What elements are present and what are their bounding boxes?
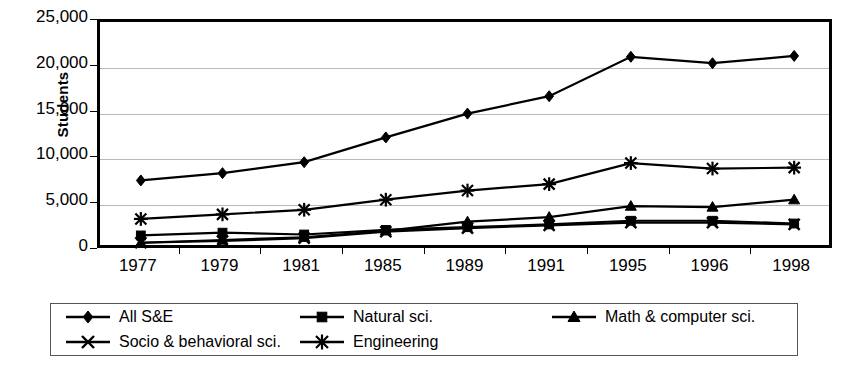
y-tick-mark [90,19,97,20]
x-tick-label: 1998 [746,256,836,276]
x-tick-mark [750,248,751,254]
x-tick-label: 1989 [420,256,510,276]
y-tick-mark [90,248,97,249]
y-tick-label: 10,000 [0,145,88,162]
legend-row: All S&ENatural sci.Math & computer sci. [51,304,797,329]
x-tick-label: 1981 [256,256,346,276]
x-tick-mark [179,248,180,254]
legend-item[interactable]: All S&E [64,307,298,327]
data-point-diamond [381,132,390,143]
y-tick-label: 5,000 [0,191,88,208]
x-tick-label: 1991 [501,256,591,276]
chart-legend: All S&ENatural sci.Math & computer sci. … [50,303,798,356]
legend-row: Socio & behavioral sci.Engineering [51,329,797,354]
data-point-diamond [83,311,93,323]
data-point-diamond [463,108,472,119]
x-tick-label: 1985 [338,256,428,276]
data-point-asterisk [624,156,638,170]
legend-label: Engineering [346,333,438,351]
x-tick-mark [505,248,506,254]
legend-label: Socio & behavioral sci. [112,333,281,351]
data-point-diamond [136,175,145,186]
x-tick-mark [342,248,343,254]
legend-marker-x [64,332,112,352]
data-point-asterisk [461,184,475,198]
data-point-asterisk [787,161,801,175]
data-point-asterisk [297,203,311,217]
y-tick-label: 0 [0,237,88,254]
legend-marker-triangle [550,307,598,327]
data-point-diamond [300,157,309,168]
legend-label: Natural sci. [346,308,433,326]
plot-area [97,19,832,248]
y-tick-mark [90,111,97,112]
x-tick-label: 1995 [583,256,673,276]
legend-item[interactable]: Natural sci. [298,307,550,327]
data-point-asterisk [315,334,330,349]
x-tick-mark [587,248,588,254]
legend-marker-asterisk [298,332,346,352]
y-tick-label: 25,000 [0,8,88,25]
data-point-asterisk [542,177,556,191]
x-tick-label: 1979 [175,256,265,276]
data-point-diamond [545,91,554,102]
data-point-asterisk [216,207,230,221]
legend-marker-square [298,307,346,327]
legend-item[interactable]: Engineering [298,332,550,352]
data-point-diamond [626,51,635,62]
y-axis-title: Students [54,45,71,165]
chart-figure: Students 05,00010,00015,00020,00025,000 … [0,0,845,369]
x-tick-label: 1996 [665,256,755,276]
y-tick-mark [90,156,97,157]
x-tick-mark [260,248,261,254]
data-point-asterisk [706,162,720,176]
legend-item[interactable]: Socio & behavioral sci. [64,332,298,352]
data-point-diamond [708,58,717,69]
legend-marker-diamond [64,307,112,327]
x-tick-mark [424,248,425,254]
data-point-diamond [790,50,799,61]
y-tick-mark [90,202,97,203]
data-point-square [317,312,327,322]
data-point-diamond [218,168,227,179]
series-overlay [100,22,835,251]
legend-label: Math & computer sci. [598,308,755,326]
legend-label: All S&E [112,308,173,326]
x-tick-mark [669,248,670,254]
data-point-asterisk [134,212,148,226]
legend-item[interactable]: Math & computer sci. [550,307,810,327]
y-tick-label: 15,000 [0,100,88,117]
x-tick-label: 1977 [93,256,183,276]
data-point-asterisk [379,193,393,207]
y-tick-mark [90,65,97,66]
y-tick-label: 20,000 [0,54,88,71]
